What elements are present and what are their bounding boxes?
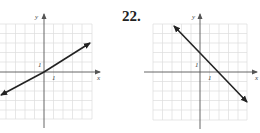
x-axis-label: x: [96, 74, 101, 82]
plotted-line-extension: [1, 72, 44, 95]
x-tick-label: 1: [52, 74, 56, 82]
y-axis-label: y: [34, 13, 39, 21]
graph-left: y x 1 1: [0, 0, 120, 133]
x-tick-label: 1: [208, 74, 212, 82]
y-axis-label: y: [191, 13, 196, 21]
y-tick-label: 1: [38, 61, 42, 69]
graph-right: y x 1 1: [140, 0, 260, 133]
plotted-line: [44, 43, 90, 72]
y-tick-label: 1: [195, 61, 199, 69]
problem-number-label: 22.: [122, 8, 141, 25]
x-axis-label: x: [254, 74, 259, 82]
plotted-line: [174, 26, 200, 53]
